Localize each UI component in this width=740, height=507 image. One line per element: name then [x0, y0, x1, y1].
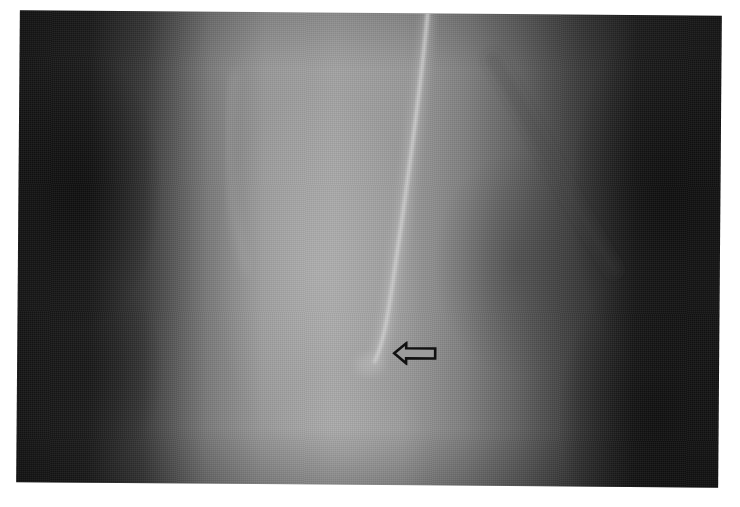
- page: [0, 0, 740, 507]
- catheter-line: [16, 10, 722, 487]
- left-arrow-icon: [392, 341, 438, 365]
- radiograph-image: [16, 10, 722, 487]
